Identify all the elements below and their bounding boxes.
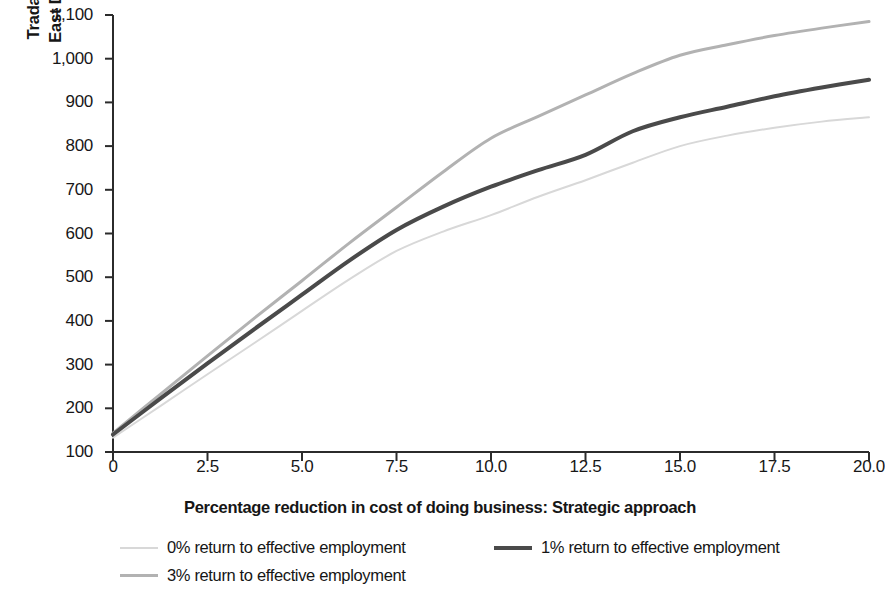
legend-item-0pct: 0% return to effective employment xyxy=(120,538,406,557)
y-axis-tick-marks xyxy=(105,15,113,452)
series-line xyxy=(113,80,869,435)
legend-item-1pct: 1% return to effective employment xyxy=(494,538,780,557)
legend-swatch-0pct xyxy=(120,547,158,549)
legend-swatch-3pct xyxy=(120,574,158,577)
legend-label-1pct: 1% return to effective employment xyxy=(541,538,780,557)
series-line xyxy=(113,22,869,434)
legend-item-3pct: 3% return to effective employment xyxy=(120,566,406,585)
legend-label-3pct: 3% return to effective employment xyxy=(167,566,406,585)
data-series-layer xyxy=(113,22,869,438)
x-axis-label: Percentage reduction in cost of doing bu… xyxy=(0,498,880,517)
legend-swatch-1pct xyxy=(494,546,532,550)
legend-label-0pct: 0% return to effective employment xyxy=(167,538,406,557)
axes xyxy=(105,15,869,461)
x-axis-tick-marks xyxy=(113,452,869,461)
series-line xyxy=(113,117,869,437)
chart-legend: 0% return to effective employment 1% ret… xyxy=(104,538,880,598)
